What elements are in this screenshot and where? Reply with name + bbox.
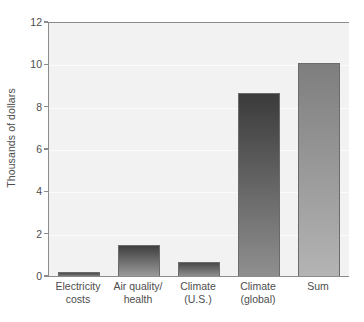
bar	[298, 63, 340, 277]
y-axis-title-text: Thousands of dollars	[5, 88, 17, 187]
y-axis-tick-label: 0	[36, 270, 42, 282]
bar	[238, 93, 280, 277]
x-axis-tick-label: Air quality/ health	[108, 280, 168, 306]
y-axis-tick-label: 6	[36, 143, 42, 155]
y-axis-tick-label: 8	[36, 101, 42, 113]
x-axis-tick-label: Climate (global)	[228, 280, 288, 306]
x-axis-tick-label: Climate (U.S.)	[168, 280, 228, 306]
bar	[118, 245, 160, 277]
y-axis-tick-label: 2	[36, 228, 42, 240]
x-axis-tick-labels: Electricity costsAir quality/ healthClim…	[48, 280, 349, 322]
y-axis-tick-label: 12	[30, 16, 42, 28]
plot-area	[48, 22, 349, 277]
y-axis-tick-label: 4	[36, 185, 42, 197]
bar	[178, 262, 220, 277]
bar-chart-figure: Thousands of dollars 024681012 Electrici…	[0, 0, 364, 322]
x-axis-line	[48, 276, 349, 277]
plot-area-inner	[49, 23, 349, 277]
y-axis-tick-label: 10	[30, 58, 42, 70]
y-axis-title: Thousands of dollars	[0, 0, 22, 276]
x-axis-tick-label: Sum	[288, 280, 348, 293]
y-axis-tick-labels: 024681012	[22, 0, 42, 322]
x-axis-tick-label: Electricity costs	[48, 280, 108, 306]
